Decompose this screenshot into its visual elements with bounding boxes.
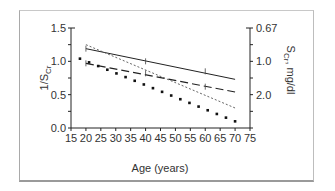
data-point [115, 72, 118, 75]
x-tick-label: 15 [65, 132, 77, 144]
data-point [161, 91, 164, 94]
y-right-tick-label: 2.0 [256, 89, 271, 101]
data-point [133, 79, 136, 82]
x-axis-title: Age (years) [132, 162, 189, 174]
data-point [188, 102, 191, 105]
x-tick-label: 25 [95, 132, 107, 144]
y-tick-label: 1.5 [51, 22, 66, 34]
data-point [170, 94, 173, 97]
data-point [216, 113, 219, 116]
data-point [206, 109, 209, 112]
x-tick-label: 40 [139, 132, 151, 144]
data-point [124, 76, 127, 79]
y-axis-right-title: SCr, mg/dl [282, 46, 297, 95]
x-tick-label: 75 [244, 132, 256, 144]
axis-labels: 152025303540455055606570750.00.51.01.50.… [51, 22, 278, 144]
x-tick-label: 70 [229, 132, 241, 144]
data-point [225, 116, 228, 119]
x-tick-label: 60 [199, 132, 211, 144]
line-chart: 152025303540455055606570750.00.51.01.50.… [0, 0, 335, 191]
x-tick-label: 55 [184, 132, 196, 144]
y-tick-label: 0.0 [51, 122, 66, 134]
data-point [79, 57, 82, 60]
x-tick-label: 65 [214, 132, 226, 144]
x-tick-label: 45 [154, 132, 166, 144]
long-dash-series-line [86, 63, 235, 92]
data-point [88, 61, 91, 64]
data-point [152, 87, 155, 90]
x-tick-label: 20 [80, 132, 92, 144]
data-point [179, 98, 182, 101]
data-point [97, 65, 100, 68]
data-point [106, 68, 109, 71]
x-tick-label: 30 [110, 132, 122, 144]
x-tick-label: 35 [125, 132, 137, 144]
data-point [197, 105, 200, 108]
y-axis-left-title: 1/SCr [38, 65, 53, 90]
series-group [79, 45, 237, 123]
x-tick-label: 50 [169, 132, 181, 144]
y-right-tick-label: 1.0 [256, 55, 271, 67]
solid-series-line [86, 49, 235, 80]
data-point [143, 83, 146, 86]
axes [68, 28, 253, 131]
y-tick-label: 0.5 [51, 89, 66, 101]
short-dash-series-line [86, 45, 235, 108]
y-right-tick-label: 0.67 [256, 22, 277, 34]
data-point [234, 120, 237, 123]
